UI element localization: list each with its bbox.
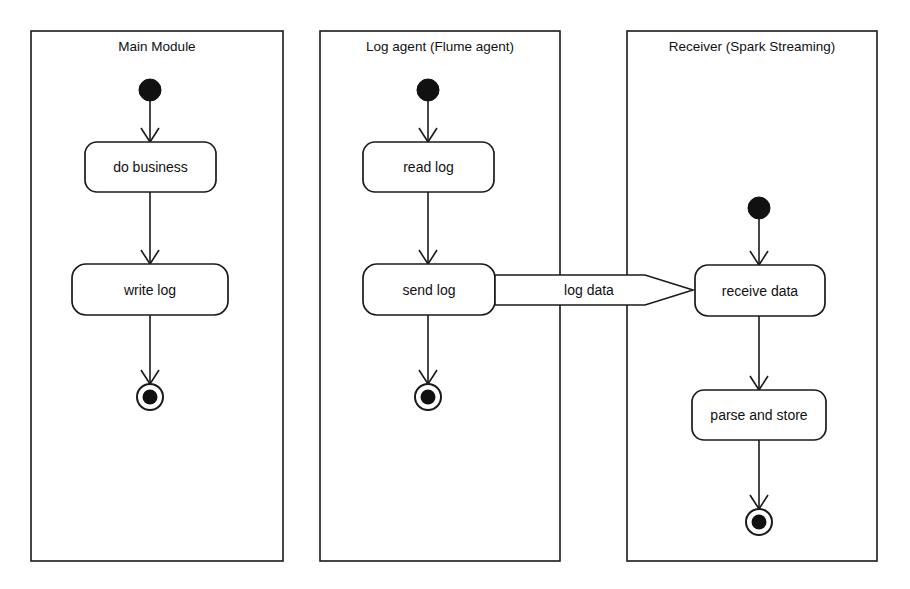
final-node-log-agent[interactable]: [415, 384, 441, 410]
partition-receiver-title: Receiver (Spark Streaming): [669, 39, 836, 54]
final-node-log-agent-dot: [421, 390, 436, 405]
final-node-main-module-dot: [143, 390, 158, 405]
action-send-log-label: send log: [403, 282, 456, 298]
action-write-log-label: write log: [123, 282, 176, 298]
final-node-receiver[interactable]: [746, 509, 772, 535]
action-parse-and-store[interactable]: parse and store: [692, 390, 826, 440]
partition-log-agent-title: Log agent (Flume agent): [366, 39, 514, 54]
action-read-log-label: read log: [403, 159, 454, 175]
initial-node-log-agent[interactable]: [417, 79, 439, 101]
action-receive-data[interactable]: receive data: [695, 265, 825, 316]
action-read-log[interactable]: read log: [363, 142, 494, 192]
signal-flow-log-data-label: log data: [564, 282, 614, 298]
action-send-log[interactable]: send log: [363, 264, 495, 315]
activity-diagram-root: Main Module Log agent (Flume agent) Rece…: [0, 0, 910, 589]
action-receive-data-label: receive data: [722, 283, 798, 299]
initial-node-receiver[interactable]: [748, 197, 770, 219]
uml-activity-diagram-canvas: Main Module Log agent (Flume agent) Rece…: [0, 0, 910, 589]
action-write-log[interactable]: write log: [72, 264, 228, 315]
final-node-main-module[interactable]: [137, 384, 163, 410]
action-parse-and-store-label: parse and store: [710, 407, 807, 423]
initial-node-main-module[interactable]: [139, 79, 161, 101]
action-do-business[interactable]: do business: [85, 142, 216, 192]
final-node-receiver-dot: [752, 515, 767, 530]
action-do-business-label: do business: [113, 159, 188, 175]
partition-main-module-title: Main Module: [118, 39, 195, 54]
